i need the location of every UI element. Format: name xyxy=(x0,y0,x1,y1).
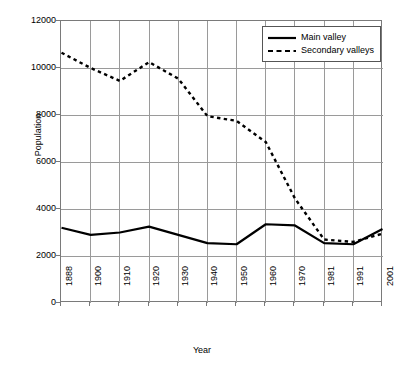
x-axis-title: Year xyxy=(0,345,404,355)
y-axis-tick-mark xyxy=(56,114,60,115)
legend-swatch-solid-icon xyxy=(267,33,297,43)
x-axis-tick-mark xyxy=(89,302,90,306)
y-axis-tick-mark xyxy=(56,302,60,303)
x-axis-tick-mark xyxy=(293,302,294,306)
x-axis-tick-mark xyxy=(381,302,382,306)
x-tick-label: 1900 xyxy=(94,266,103,306)
legend-item-secondary-valleys: Secondary valleys xyxy=(267,44,374,57)
x-tick-label: 2001 xyxy=(386,266,395,306)
x-tick-label: 1940 xyxy=(210,266,219,306)
x-axis-tick-mark xyxy=(148,302,149,306)
x-axis-tick-mark xyxy=(352,302,353,306)
x-axis-tick-mark xyxy=(235,302,236,306)
x-tick-label: 1991 xyxy=(356,266,365,306)
legend-label: Secondary valleys xyxy=(301,46,374,55)
x-axis-tick-mark xyxy=(60,302,61,306)
legend-item-main-valley: Main valley xyxy=(267,31,374,44)
x-axis-tick-mark xyxy=(206,302,207,306)
x-tick-label: 1920 xyxy=(152,266,161,306)
x-axis-tick-mark xyxy=(177,302,178,306)
x-tick-label: 1960 xyxy=(269,266,278,306)
x-tick-label: 1888 xyxy=(65,266,74,306)
x-tick-label: 1981 xyxy=(327,266,336,306)
y-axis-tick-mark xyxy=(56,255,60,256)
x-axis-tick-mark xyxy=(264,302,265,306)
x-axis-tick-mark xyxy=(323,302,324,306)
population-line-chart: 12000 10000 8000 6000 4000 2000 0 Popula… xyxy=(0,0,404,365)
x-tick-label: 1970 xyxy=(298,266,307,306)
x-tick-label: 1910 xyxy=(123,266,132,306)
legend-swatch-dashed-icon xyxy=(267,46,297,56)
y-axis-tick-mark xyxy=(56,67,60,68)
x-tick-label: 1950 xyxy=(240,266,249,306)
x-axis-tick-mark xyxy=(118,302,119,306)
x-tick-label: 1930 xyxy=(181,266,190,306)
y-axis-tick-mark xyxy=(56,208,60,209)
chart-legend: Main valley Secondary valleys xyxy=(262,26,381,62)
legend-label: Main valley xyxy=(301,33,346,42)
y-axis-tick-mark xyxy=(56,161,60,162)
y-axis-tick-mark xyxy=(56,20,60,21)
